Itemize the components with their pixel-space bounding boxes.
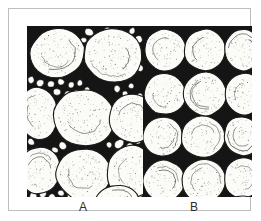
figure-frame: A B [8, 8, 251, 211]
figure-root: A B [0, 0, 261, 221]
panel-a-poorly-sorted [27, 26, 143, 197]
illustration-panels [27, 26, 252, 197]
panel-a-artwork [27, 26, 143, 197]
panel-b-artwork [143, 26, 252, 197]
panel-captions: A B [27, 199, 252, 217]
panel-a-label: A [79, 199, 88, 215]
panel-b-well-sorted [143, 26, 252, 197]
panel-b-label: B [190, 199, 199, 215]
